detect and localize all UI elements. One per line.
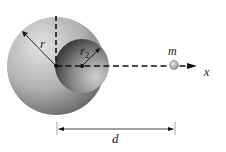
label-m: m bbox=[168, 44, 177, 58]
label-x: x bbox=[203, 65, 210, 79]
label-r2-subscript: 2 bbox=[85, 50, 90, 60]
label-d: d bbox=[112, 131, 119, 146]
point-mass bbox=[170, 61, 179, 70]
cavity-center-dot bbox=[80, 64, 84, 68]
d-left-arrowhead-icon bbox=[58, 127, 64, 131]
sphere-center-dot bbox=[54, 64, 58, 68]
diagram-canvas: r r2 m x d bbox=[0, 0, 226, 152]
x-axis-arrowhead-icon bbox=[187, 63, 197, 69]
d-right-arrowhead-icon bbox=[168, 127, 174, 131]
